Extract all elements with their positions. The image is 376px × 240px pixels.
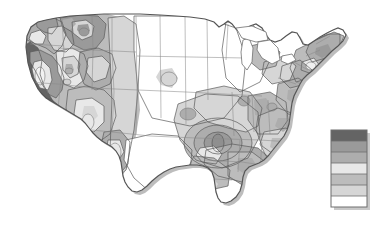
legend-band-4[interactable] bbox=[331, 163, 367, 174]
contour-spot-kansas bbox=[180, 108, 196, 120]
us-contour-map-figure bbox=[0, 0, 376, 240]
legend-band-1[interactable] bbox=[331, 130, 367, 141]
contour-spot-nevada bbox=[65, 68, 73, 74]
legend-band-2[interactable] bbox=[331, 141, 367, 152]
contour-spot-virginia bbox=[299, 119, 307, 126]
map-svg bbox=[0, 0, 376, 240]
legend-band-3[interactable] bbox=[331, 152, 367, 163]
legend[interactable] bbox=[331, 130, 370, 210]
legend-band-7[interactable] bbox=[331, 196, 367, 207]
region-socal-basin-light bbox=[51, 110, 60, 119]
legend-band-6[interactable] bbox=[331, 185, 367, 196]
legend-band-5[interactable] bbox=[331, 174, 367, 185]
contour-spot-montana bbox=[79, 28, 89, 36]
contour-spot-nebraska bbox=[161, 72, 177, 86]
